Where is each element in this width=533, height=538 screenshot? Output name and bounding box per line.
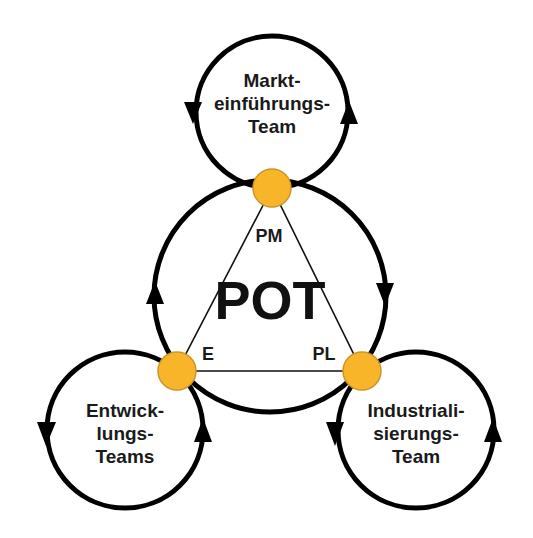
center-title-pot: POT xyxy=(190,268,350,333)
team-label-line: Industriali- xyxy=(346,400,486,423)
arrow-up-icon xyxy=(484,418,502,442)
team-label-market-launch: Markt- einführungs- Team xyxy=(192,70,352,138)
role-label-pl: PL xyxy=(304,344,344,366)
team-label-development: Entwick- lungs- Teams xyxy=(55,400,195,468)
arrow-down-icon xyxy=(376,283,394,306)
team-label-line: Team xyxy=(192,116,352,139)
arrow-up-icon xyxy=(194,418,212,442)
team-label-line: Teams xyxy=(55,446,195,469)
team-label-line: sierungs- xyxy=(346,423,486,446)
team-label-line: Entwick- xyxy=(55,400,195,423)
role-label-e: E xyxy=(196,344,220,366)
team-label-line: einführungs- xyxy=(192,93,352,116)
node-pl xyxy=(343,352,381,390)
arrow-up-icon xyxy=(146,281,164,304)
team-label-industrialization: Industriali- sierungs- Team xyxy=(346,400,486,468)
team-label-line: lungs- xyxy=(55,423,195,446)
node-e xyxy=(158,352,196,390)
arrow-down-icon xyxy=(37,422,56,446)
team-label-line: Markt- xyxy=(192,70,352,93)
pot-diagram: Markt- einführungs- Team Entwick- lungs-… xyxy=(0,0,533,538)
node-pm xyxy=(253,169,291,207)
role-label-pm: PM xyxy=(244,226,294,248)
team-label-line: Team xyxy=(346,446,486,469)
